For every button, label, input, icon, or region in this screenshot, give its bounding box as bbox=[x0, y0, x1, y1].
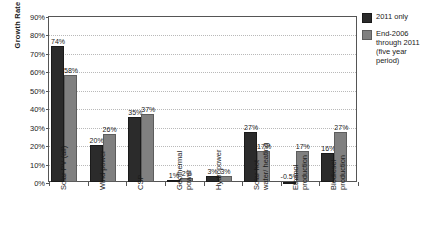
y-axis-tick-label: 10% bbox=[15, 160, 45, 169]
y-axis-tick-label: 30% bbox=[15, 123, 45, 132]
bar-value-label: 74% bbox=[45, 38, 71, 45]
x-axis-category-label: Biodiesel production bbox=[330, 136, 347, 190]
bar-group: 35%37% bbox=[126, 17, 165, 182]
bar-value-label: 37% bbox=[135, 106, 161, 113]
legend-item: 2011 only bbox=[362, 12, 428, 23]
legend-item: End-2006 through 2011 (five year period) bbox=[362, 29, 428, 65]
y-axis-tick-label: 80% bbox=[15, 31, 45, 40]
bar-value-label: 27% bbox=[328, 124, 354, 131]
x-axis-category-label: Ethanol production bbox=[292, 136, 309, 190]
legend-label-five-year: End-2006 through 2011 (five year period) bbox=[376, 29, 420, 65]
bar-value-label: 27% bbox=[238, 124, 264, 131]
x-axis-tick-mark bbox=[242, 182, 243, 186]
plot-area: 0%10%20%30%40%50%60%70%80%90%74%58%20%26… bbox=[48, 16, 357, 182]
x-axis-tick-mark bbox=[88, 182, 89, 186]
y-axis-tick-label: 90% bbox=[15, 13, 45, 22]
x-axis-tick-mark bbox=[319, 182, 320, 186]
legend-swatch-five-year bbox=[362, 30, 372, 40]
y-axis-tick-label: 60% bbox=[15, 68, 45, 77]
x-axis-category-label: CSP bbox=[137, 136, 146, 190]
x-axis-tick-mark bbox=[49, 182, 50, 186]
x-axis-tick-mark bbox=[358, 182, 359, 186]
y-axis-tick-label: 20% bbox=[15, 142, 45, 151]
x-axis-tick-mark bbox=[165, 182, 166, 186]
y-axis-tick-label: 50% bbox=[15, 86, 45, 95]
x-axis-category-label: Solar PV (all) bbox=[60, 136, 69, 190]
y-axis-tick-label: 0% bbox=[15, 179, 45, 188]
legend-swatch-2011-only bbox=[362, 13, 372, 23]
y-axis-tick-label: 40% bbox=[15, 105, 45, 114]
x-axis-tick-mark bbox=[281, 182, 282, 186]
chart-legend: 2011 only End-2006 through 2011 (five ye… bbox=[362, 12, 428, 71]
x-axis-category-label: Wind power bbox=[99, 136, 108, 190]
bar-value-label: 26% bbox=[97, 126, 123, 133]
bar-value-label: 58% bbox=[58, 67, 84, 74]
x-axis-category-label: Solar hot water/ heating bbox=[253, 136, 270, 190]
x-axis-tick-mark bbox=[204, 182, 205, 186]
x-axis-category-label: Geothermal power bbox=[176, 136, 193, 190]
x-axis-tick-mark bbox=[126, 182, 127, 186]
x-axis-category-label: Hydropower bbox=[215, 136, 224, 190]
growth-rate-bar-chart: Growth Rate 0%10%20%30%40%50%60%70%80%90… bbox=[0, 0, 430, 245]
legend-label-2011-only: 2011 only bbox=[376, 12, 408, 21]
y-axis-tick-label: 70% bbox=[15, 49, 45, 58]
